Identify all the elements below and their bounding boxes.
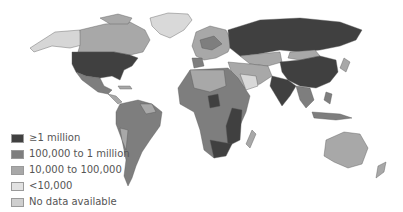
legend-label: 100,000 to 1 million <box>29 148 130 160</box>
legend-swatch-medium-dark <box>11 150 24 159</box>
legend-item-over-1-million: ≥1 million <box>11 130 130 146</box>
region-australia <box>324 132 368 168</box>
legend-item-100k-to-1m: 100,000 to 1 million <box>11 146 130 162</box>
map-legend: ≥1 million 100,000 to 1 million 10,000 t… <box>11 130 130 210</box>
region-russia <box>228 18 362 56</box>
legend-swatch-medium <box>11 166 24 175</box>
legend-label: 10,000 to 100,000 <box>29 164 122 176</box>
legend-item-under-10k: <10,000 <box>11 178 130 194</box>
legend-label: ≥1 million <box>29 132 80 144</box>
legend-item-10k-to-100k: 10,000 to 100,000 <box>11 162 130 178</box>
legend-swatch-dark <box>11 134 24 143</box>
legend-label: No data available <box>29 196 117 208</box>
legend-item-no-data: No data available <box>11 194 130 210</box>
region-greenland <box>150 13 192 38</box>
region-alaska <box>30 30 82 52</box>
legend-swatch-no-data <box>11 198 24 207</box>
legend-label: <10,000 <box>29 180 72 192</box>
legend-swatch-light <box>11 182 24 191</box>
region-canada <box>78 22 150 55</box>
